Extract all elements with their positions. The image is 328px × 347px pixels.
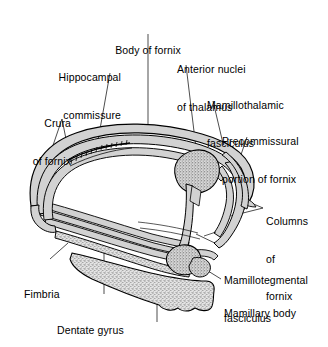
label-line: of fornix — [1, 155, 71, 168]
label-hippocampus: Hippocampus — [127, 327, 227, 347]
label-line: Mamillary body — [224, 307, 328, 320]
label-line: portion of fornix — [222, 173, 328, 186]
anatomical-figure: Body of fornix Hippocampal commissure Cr… — [0, 0, 328, 347]
label-line: Columns — [266, 215, 328, 228]
label-crura-of-fornix: Crura of fornix — [1, 92, 71, 192]
label-line: Hippocampal — [21, 71, 121, 84]
label-line: Precommissural — [222, 135, 328, 148]
mamillary-body-lobe — [189, 257, 210, 277]
label-line: Crura — [1, 117, 71, 130]
label-mamillary-body: Mamillary body — [224, 282, 328, 345]
